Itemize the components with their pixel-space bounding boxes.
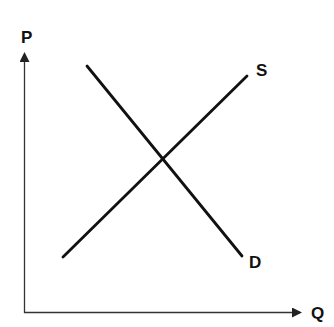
supply-label: S [256, 61, 267, 80]
demand-curve [87, 66, 242, 256]
demand-label: D [249, 253, 261, 272]
x-axis-label: Q [311, 304, 324, 323]
supply-demand-diagram: P Q S D [0, 0, 334, 327]
y-axis-label: P [21, 28, 32, 47]
